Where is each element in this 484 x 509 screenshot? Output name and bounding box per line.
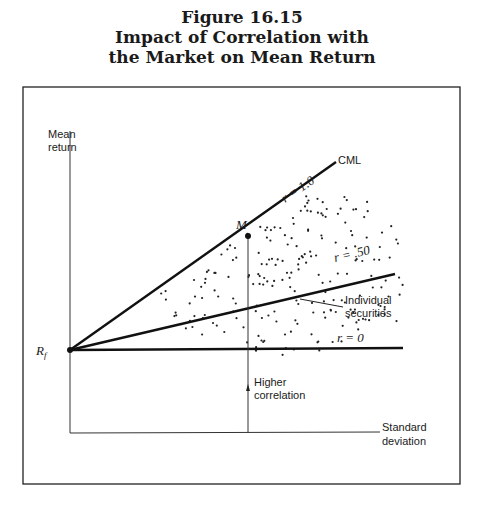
- m-label: M: [235, 217, 248, 232]
- x-axis: [70, 432, 380, 433]
- cml-label: CML: [338, 154, 361, 166]
- r0-label: r = 0: [337, 330, 364, 345]
- higher-correlation-label-2: correlation: [254, 389, 305, 401]
- higher-correlation-label-1: Higher: [254, 376, 287, 388]
- r0-line: [70, 348, 403, 350]
- securities-label-1: Individual: [345, 294, 391, 306]
- securities-scatter: [160, 195, 404, 356]
- r1-label: r = 1.0: [278, 172, 317, 205]
- x-axis-label-1: Standard: [382, 421, 427, 433]
- arrow-up-icon: [246, 384, 250, 391]
- x-axis-label-2: deviation: [382, 435, 426, 447]
- rf-label: Rf: [35, 343, 48, 360]
- risk-free-point: [67, 347, 73, 353]
- securities-label-2: securities: [345, 307, 392, 319]
- y-axis-label-1: Mean: [48, 128, 76, 140]
- securities-leader: [300, 299, 343, 307]
- market-point-m: [245, 233, 251, 239]
- y-axis-label-2: return: [48, 141, 77, 153]
- chart-canvas: Mean return Standard deviation CML M Rf …: [0, 0, 484, 509]
- r50-label: r = .50: [332, 242, 372, 265]
